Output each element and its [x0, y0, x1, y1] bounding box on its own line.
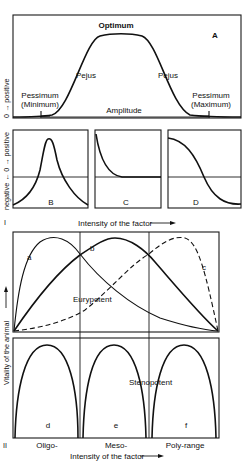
pejus-left-label: Pejus: [76, 71, 96, 80]
panel-d-letter: D: [193, 198, 199, 207]
panel-a-letter: A: [212, 31, 218, 40]
optimum-label: Optimum: [98, 21, 133, 30]
panel-d: D: [168, 130, 241, 208]
subpanel-d-letter: d: [46, 421, 50, 430]
subpanel-f-letter: f: [185, 421, 188, 430]
pessimum-max-label-1: Pessimum: [192, 91, 230, 100]
panels-bcd: negative ← 0 → positive B C D I Intensit…: [2, 130, 241, 228]
panel-c-frame: [95, 130, 161, 208]
pessimum-min-label-1: Pessimum: [21, 91, 59, 100]
panel-b: B: [13, 130, 88, 208]
part-i-label: I: [4, 218, 6, 227]
range-oligo-label: Oligo-: [36, 441, 58, 450]
panel-c-curve: [96, 134, 161, 177]
part-ii-x-axis-label: Intensity of the factor: [70, 452, 145, 461]
panel-c-letter: C: [123, 198, 129, 207]
pessimum-min-label-2: (Minimum): [21, 100, 59, 109]
panel-c: C: [95, 130, 161, 208]
curve-a: [14, 238, 218, 331]
curve-c-label: c: [202, 263, 206, 272]
curve-c: [14, 238, 218, 331]
panel-b-curve: [13, 139, 88, 205]
arrow-up-icon: [4, 286, 8, 292]
panel-a-y-axis-label: 0 → positive: [2, 78, 11, 118]
panel-d-curve: [168, 138, 241, 204]
arrow-right-icon: [170, 221, 176, 225]
curve-b-label: b: [90, 244, 95, 253]
panel-b-letter: B: [48, 198, 53, 207]
panels-bcd-y-axis-label: negative ← 0 → positive: [2, 132, 11, 210]
panel-a: Optimum A Pejus Pejus Pessimum (Minimum)…: [2, 15, 241, 118]
bcd-x-axis-label: Intensity of the factor: [78, 219, 153, 228]
pessimum-max-label-2: (Maximum): [191, 100, 231, 109]
range-poly-label: Poly-range: [166, 441, 205, 450]
part-ii-label: II: [3, 441, 7, 450]
eurypotent-label: Eurypotent: [73, 295, 112, 304]
arrow-right-icon: [158, 454, 164, 458]
part-ii-stenopotent: Stenopotent d e f II Oligo- Meso- Poly-r…: [3, 332, 219, 461]
vitality-y-axis-label: Vitality of the animal: [2, 320, 11, 385]
part-ii-eurypotent: a b c Eurypotent: [13, 232, 219, 332]
curve-a-label: a: [27, 253, 32, 262]
amplitude-label: Amplitude: [106, 106, 142, 115]
tolerance-curves-figure: Optimum A Pejus Pejus Pessimum (Minimum)…: [0, 0, 249, 466]
range-meso-label: Meso-: [105, 441, 128, 450]
curve-b: [14, 238, 218, 331]
subpanel-e-letter: e: [114, 421, 119, 430]
stenopotent-label: Stenopotent: [129, 378, 173, 387]
pejus-right-label: Pejus: [158, 71, 178, 80]
